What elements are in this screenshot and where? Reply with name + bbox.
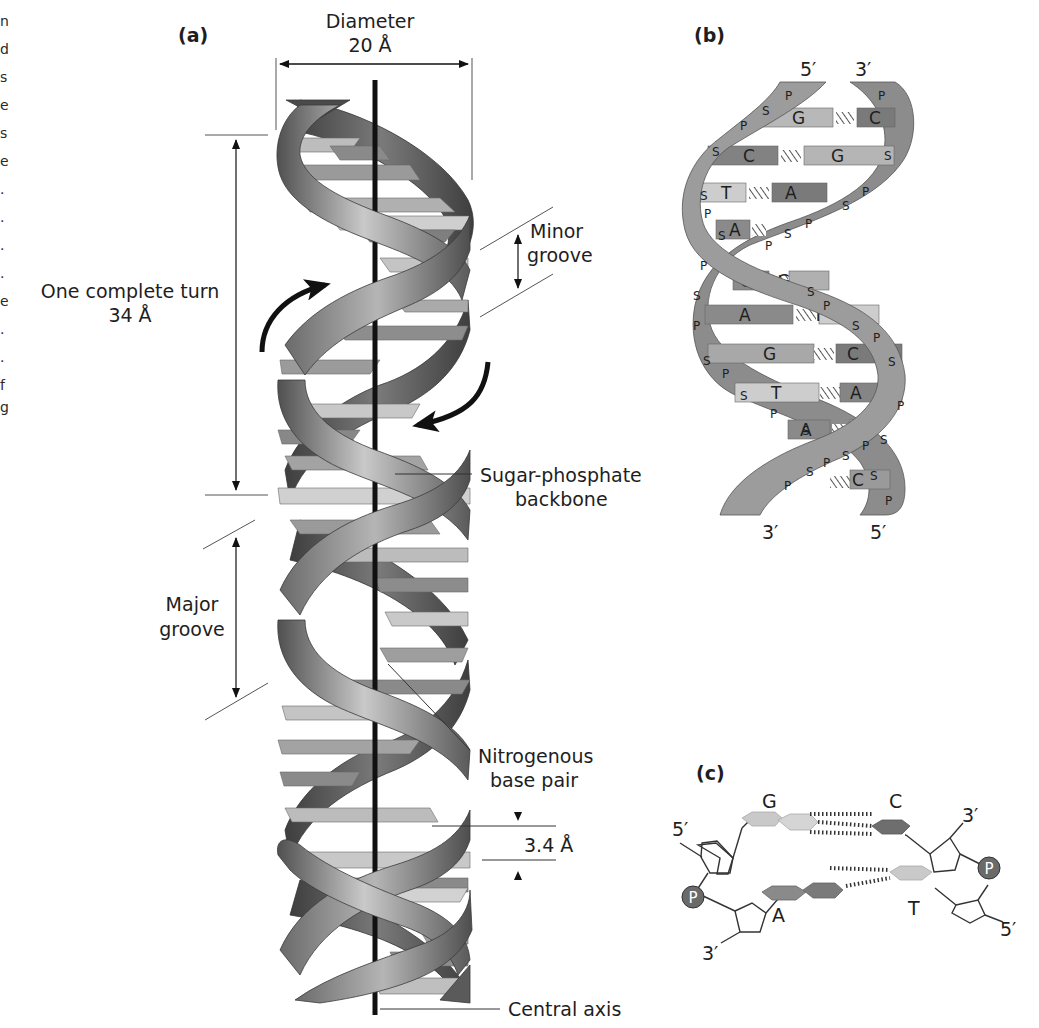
end-label-5prime-top: 5′ xyxy=(800,58,816,80)
svg-text:Major: Major xyxy=(166,593,219,615)
svg-text:S: S xyxy=(884,149,892,163)
svg-text:P: P xyxy=(770,407,777,421)
svg-text:P: P xyxy=(740,119,747,133)
svg-text:34 Å: 34 Å xyxy=(108,304,151,326)
svg-text:S: S xyxy=(880,433,888,447)
svg-text:P: P xyxy=(765,239,772,253)
svg-text:T: T xyxy=(720,183,732,203)
svg-text:Sugar-phosphate: Sugar-phosphate xyxy=(480,464,642,486)
svg-text:P: P xyxy=(688,889,697,907)
svg-text:n: n xyxy=(0,13,9,29)
svg-text:Central axis: Central axis xyxy=(508,998,621,1020)
svg-text:Minor: Minor xyxy=(530,220,583,242)
svg-text:s: s xyxy=(0,69,7,85)
svg-text:One complete turn: One complete turn xyxy=(41,280,220,302)
svg-text:S: S xyxy=(806,465,814,479)
dna-figure: n d s e s e . . . . e . . f g (a) Diamet… xyxy=(0,0,1039,1028)
svg-text:G: G xyxy=(831,146,844,166)
phosphate-right-icon: P xyxy=(978,857,1000,879)
svg-text:S: S xyxy=(740,389,748,403)
svg-text:.: . xyxy=(0,349,4,365)
svg-text:P: P xyxy=(823,299,830,313)
svg-text:A: A xyxy=(785,183,797,203)
svg-text:.: . xyxy=(0,237,4,253)
svg-text:S: S xyxy=(712,145,720,159)
svg-text:P: P xyxy=(784,479,791,493)
panel-a-label: (a) xyxy=(178,24,208,46)
svg-text:5′: 5′ xyxy=(672,818,688,840)
svg-text:base pair: base pair xyxy=(490,769,578,791)
svg-text:.: . xyxy=(0,209,4,225)
svg-text:f: f xyxy=(0,377,6,393)
panel-a: (a) Diameter 20 Å xyxy=(41,10,642,1020)
thymine-ring xyxy=(890,866,932,880)
svg-text:A: A xyxy=(850,383,862,403)
svg-text:.: . xyxy=(0,321,4,337)
major-groove-annotation: Major groove xyxy=(159,520,268,720)
svg-text:P: P xyxy=(693,319,700,333)
panel-c: (c) G C A T 5′ 3′ 3′ 5′ xyxy=(672,762,1016,964)
svg-text:S: S xyxy=(888,355,896,369)
svg-text:3′: 3′ xyxy=(962,804,978,826)
svg-text:S: S xyxy=(703,354,711,368)
svg-text:S: S xyxy=(807,285,815,299)
end-label-5prime-bottom: 5′ xyxy=(870,521,886,543)
base-label-g: G xyxy=(762,790,777,812)
panel-c-label: (c) xyxy=(696,762,725,784)
guanine-ring xyxy=(742,812,818,830)
svg-text:P: P xyxy=(700,259,707,273)
svg-text:P: P xyxy=(862,439,869,453)
svg-text:e: e xyxy=(0,153,9,169)
svg-text:P: P xyxy=(862,185,869,199)
svg-text:Nitrogenous: Nitrogenous xyxy=(478,745,593,767)
svg-text:G: G xyxy=(792,108,805,128)
svg-text:S: S xyxy=(718,229,726,243)
svg-text:P: P xyxy=(785,89,792,103)
svg-text:P: P xyxy=(878,89,885,103)
svg-text:d: d xyxy=(0,41,9,57)
svg-text:e: e xyxy=(0,97,9,113)
svg-text:groove: groove xyxy=(527,244,593,266)
cytosine-ring xyxy=(872,820,910,834)
svg-text:A: A xyxy=(729,220,741,240)
end-label-3prime-bottom: 3′ xyxy=(762,521,778,543)
svg-text:P: P xyxy=(704,207,711,221)
phosphate-left-icon: P xyxy=(682,886,704,908)
svg-text:S: S xyxy=(852,319,860,333)
base-label-c: C xyxy=(889,790,902,812)
sugar-rings xyxy=(680,822,1003,943)
svg-text:P: P xyxy=(984,860,993,878)
svg-text:C: C xyxy=(869,108,881,128)
svg-text:P: P xyxy=(722,367,729,381)
svg-text:P: P xyxy=(885,494,892,508)
svg-text:s: s xyxy=(0,125,7,141)
svg-text:3.4 Å: 3.4 Å xyxy=(524,834,573,856)
minor-groove-annotation: Minor groove xyxy=(480,207,593,317)
svg-text:Diameter: Diameter xyxy=(326,10,415,32)
svg-text:G: G xyxy=(763,344,776,364)
svg-text:P: P xyxy=(873,331,880,345)
one-turn-dimension: One complete turn 34 Å xyxy=(41,135,268,495)
svg-text:C: C xyxy=(852,470,864,490)
svg-text:T: T xyxy=(770,383,782,403)
svg-text:C: C xyxy=(847,344,859,364)
svg-text:.: . xyxy=(0,181,4,197)
svg-text:backbone: backbone xyxy=(515,488,608,510)
cropped-caption-fragments: n d s e s e . . . . e . . f g xyxy=(0,13,9,415)
base-label-t: T xyxy=(907,897,920,919)
svg-text:C: C xyxy=(743,146,755,166)
svg-text:e: e xyxy=(0,293,9,309)
svg-text:S: S xyxy=(842,199,850,213)
panel-b: (b) 5′ 3′ 3′ 5′ xyxy=(682,24,913,543)
svg-text:P: P xyxy=(823,456,830,470)
svg-text:P: P xyxy=(805,217,812,231)
base-label-a: A xyxy=(772,904,785,926)
svg-text:S: S xyxy=(700,189,708,203)
svg-text:S: S xyxy=(870,469,878,483)
svg-text:20 Å: 20 Å xyxy=(348,34,391,56)
svg-text:S: S xyxy=(802,424,810,438)
svg-text:S: S xyxy=(762,104,770,118)
svg-text:g: g xyxy=(0,399,9,415)
end-label-3prime-top: 3′ xyxy=(855,58,871,80)
svg-text:S: S xyxy=(842,449,850,463)
